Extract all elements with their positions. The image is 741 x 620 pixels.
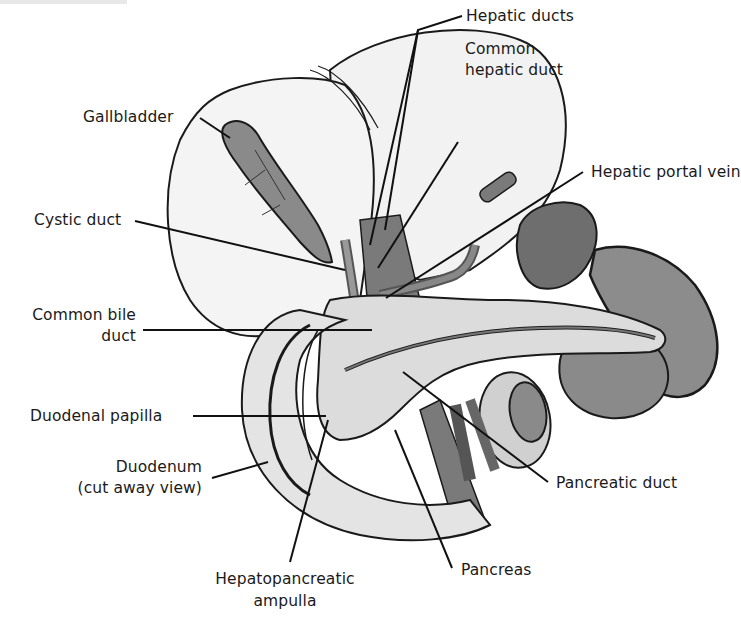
label-duodenum-line2: (cut away view)	[40, 479, 202, 498]
label-common-bile-duct-line2: duct	[10, 327, 136, 346]
label-hepatopancreatic-ampulla-line2: ampulla	[200, 592, 370, 611]
label-duodenum-line1: Duodenum	[40, 458, 202, 477]
label-hepatopancreatic-ampulla-line1: Hepatopancreatic	[200, 570, 370, 589]
label-hepatic-ducts: Hepatic ducts	[466, 7, 574, 26]
label-common-bile-duct-line1: Common bile	[10, 306, 136, 325]
label-hepatic-portal-vein: Hepatic portal vein	[591, 163, 741, 182]
label-common-hepatic-duct-line1: Common	[465, 40, 535, 59]
label-duodenal-papilla: Duodenal papilla	[30, 407, 162, 426]
leader-duodenum	[212, 462, 268, 478]
label-pancreas: Pancreas	[461, 561, 531, 580]
spleen	[517, 202, 597, 288]
label-gallbladder: Gallbladder	[83, 108, 173, 127]
label-cystic-duct: Cystic duct	[34, 211, 121, 230]
label-pancreatic-duct: Pancreatic duct	[556, 474, 677, 493]
label-common-hepatic-duct-line2: hepatic duct	[465, 61, 563, 80]
